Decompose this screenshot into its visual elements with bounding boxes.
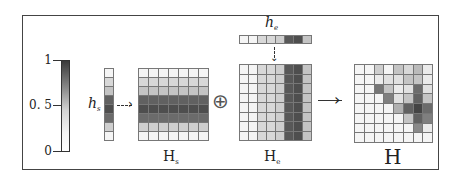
- he-matrix-cell: [294, 103, 303, 113]
- hs-vector-cell: [105, 96, 114, 105]
- result-matrix-cell: [355, 75, 365, 85]
- hs-matrix-cell: [199, 123, 209, 132]
- hs-matrix-cell: [149, 96, 159, 105]
- hs-matrix-cell: [149, 105, 159, 114]
- hs-vector-cell: [105, 114, 114, 123]
- he-matrix-cell: [267, 94, 276, 104]
- he-matrix-cell: [240, 75, 249, 85]
- result-matrix-cell: [365, 75, 375, 85]
- hs-matrix-cell: [139, 87, 149, 96]
- he-vector: [239, 35, 312, 44]
- hs-vector-cell: [105, 105, 114, 114]
- he-matrix-cell: [303, 84, 312, 94]
- result-matrix-cell: [404, 124, 414, 134]
- hs-matrix-cell: [199, 132, 209, 141]
- hs-matrix-cell: [169, 87, 179, 96]
- he-matrix-cell: [267, 75, 276, 85]
- result-matrix-cell: [365, 133, 375, 143]
- hs-vector: [104, 68, 114, 141]
- result-matrix-cell: [355, 85, 365, 95]
- result-matrix-cell: [355, 94, 365, 104]
- arrowhead-icon: ›: [128, 97, 133, 111]
- hs-matrix-cell: [189, 69, 199, 78]
- hs-matrix-cell: [179, 105, 189, 114]
- hs-matrix-cell: [159, 105, 169, 114]
- result-matrix-cell: [355, 104, 365, 114]
- hs-matrix-cell: [149, 87, 159, 96]
- result-matrix-cell: [375, 85, 385, 95]
- he-matrix-cell: [285, 113, 294, 123]
- he-matrix-cell: [285, 84, 294, 94]
- hs-label-main: h: [88, 95, 97, 111]
- hs-vector-cell: [105, 69, 114, 78]
- he-matrix-cell: [267, 113, 276, 123]
- result-matrix-cell: [423, 75, 433, 85]
- colorbar-label-05: 0. 5: [26, 99, 52, 111]
- he-matrix-cell: [249, 122, 258, 132]
- he-matrix-cell: [258, 103, 267, 113]
- he-matrix-cell: [240, 113, 249, 123]
- he-matrix-label-main: H: [264, 148, 276, 164]
- result-matrix-cell: [384, 124, 394, 134]
- hs-matrix-cell: [159, 69, 169, 78]
- result-matrix-cell: [355, 65, 365, 75]
- he-matrix-cell: [258, 94, 267, 104]
- he-matrix-cell: [294, 122, 303, 132]
- result-matrix-cell: [414, 85, 424, 95]
- he-matrix-cell: [276, 94, 285, 104]
- result-matrix-cell: [423, 104, 433, 114]
- he-matrix-cell: [303, 103, 312, 113]
- result-matrix-cell: [365, 65, 375, 75]
- hs-matrix-cell: [179, 123, 189, 132]
- result-matrix-cell: [423, 114, 433, 124]
- hs-matrix-cell: [199, 69, 209, 78]
- result-matrix-cell: [365, 94, 375, 104]
- hs-matrix-cell: [179, 87, 189, 96]
- he-vector-cell: [294, 36, 303, 44]
- hs-vector-cell: [105, 78, 114, 87]
- result-matrix-cell: [375, 75, 385, 85]
- he-matrix-cell: [276, 103, 285, 113]
- hs-matrix-cell: [159, 123, 169, 132]
- hs-label-sub: s: [97, 105, 101, 113]
- result-matrix-cell: [423, 133, 433, 143]
- result-matrix-cell: [384, 104, 394, 114]
- colorbar-gradient: [61, 60, 70, 152]
- he-matrix-cell: [249, 75, 258, 85]
- hs-matrix-cell: [179, 78, 189, 87]
- result-matrix-cell: [404, 133, 414, 143]
- result-matrix-cell: [423, 94, 433, 104]
- result-matrix-cell: [355, 133, 365, 143]
- he-matrix-cell: [240, 122, 249, 132]
- he-matrix-cell: [276, 132, 285, 142]
- hs-matrix-cell: [189, 96, 199, 105]
- he-matrix-cell: [303, 122, 312, 132]
- he-matrix-cell: [240, 94, 249, 104]
- hs-matrix-cell: [149, 123, 159, 132]
- result-matrix-cell: [394, 104, 404, 114]
- he-matrix-cell: [294, 65, 303, 75]
- he-matrix-cell: [249, 84, 258, 94]
- he-matrix-cell: [285, 65, 294, 75]
- result-matrix-cell: [355, 114, 365, 124]
- he-matrix-cell: [249, 65, 258, 75]
- hs-matrix-label-sub: s: [175, 158, 179, 166]
- hs-matrix-cell: [169, 114, 179, 123]
- he-vector-cell: [276, 36, 285, 44]
- colorbar-tick-0: [53, 151, 61, 152]
- hs-matrix-label-main: H: [163, 148, 175, 164]
- result-matrix-cell: [404, 85, 414, 95]
- hs-label: hs: [88, 95, 101, 113]
- he-matrix-cell: [258, 65, 267, 75]
- he-matrix-cell: [258, 132, 267, 142]
- he-matrix-cell: [240, 65, 249, 75]
- result-arrow-icon: ›: [334, 90, 340, 109]
- he-matrix-cell: [276, 75, 285, 85]
- result-matrix-cell: [423, 124, 433, 134]
- hs-matrix-cell: [179, 114, 189, 123]
- result-matrix-cell: [365, 104, 375, 114]
- he-matrix-cell: [258, 113, 267, 123]
- he-matrix-label: He: [264, 148, 280, 166]
- result-matrix-cell: [394, 65, 404, 75]
- result-matrix-cell: [404, 94, 414, 104]
